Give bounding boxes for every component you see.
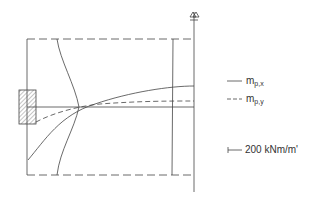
mpy-curve [36, 101, 194, 122]
mpx-curve [28, 86, 194, 160]
legend-mpx-label: mp,x [246, 75, 264, 87]
section-marker-icon [190, 12, 199, 28]
column-support [19, 90, 36, 124]
scale-label: 200 kNm/m' [245, 144, 298, 155]
legend-mpy-label: mp,y [246, 93, 264, 105]
plate-moment-diagram [0, 0, 312, 197]
